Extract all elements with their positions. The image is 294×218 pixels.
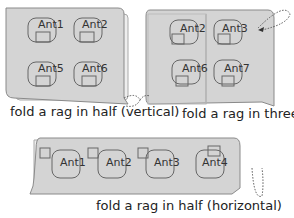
caption-vertical: fold a rag in half (vertical) xyxy=(10,104,179,119)
ant-label: Ant4 xyxy=(202,156,228,169)
ant-label: Ant3 xyxy=(154,156,180,169)
caption-horizontal: fold a rag in half (horizontal) xyxy=(96,198,282,213)
ant-label: Ant2 xyxy=(82,18,108,31)
ant-label: Ant6 xyxy=(182,62,208,75)
caption-three: fold a rag in three xyxy=(182,106,294,121)
rag-vertical xyxy=(6,8,140,106)
ant-label: Ant7 xyxy=(224,62,250,75)
ant-label: Ant1 xyxy=(38,18,64,31)
rag-three xyxy=(140,10,290,106)
ant-label: Ant2 xyxy=(180,22,206,35)
ant-label: Ant1 xyxy=(60,156,86,169)
ant-label: Ant2 xyxy=(106,156,132,169)
ant-label: Ant3 xyxy=(222,22,248,35)
ant-label: Ant6 xyxy=(82,62,108,75)
ant-label: Ant5 xyxy=(38,62,64,75)
